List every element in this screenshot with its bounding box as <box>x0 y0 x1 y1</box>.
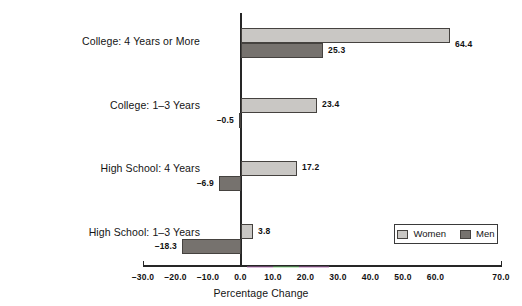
axis-artifact-2 <box>273 266 299 267</box>
bar-men-hs-4 <box>219 176 241 191</box>
bar-value-women-college-1to3: 23.4 <box>322 100 339 109</box>
bar-value-women-college-4plus: 64.4 <box>455 40 472 49</box>
chart-legend: Women Men <box>394 224 498 244</box>
bar-chart: College: 4 Years or More College: 1–3 Ye… <box>0 0 522 306</box>
tick-mark-3 <box>240 259 241 265</box>
bar-men-college-1to3 <box>239 113 241 128</box>
bar-women-college-1to3 <box>241 98 317 113</box>
axis-artifact-3 <box>299 266 329 267</box>
bar-value-women-hs-4: 17.2 <box>302 163 319 172</box>
bar-value-men-hs-1to3: –18.3 <box>129 242 177 251</box>
legend-item-women[interactable]: Women <box>397 229 446 239</box>
tick-mark-0 <box>143 261 144 265</box>
plot-area: 64.4 25.3 23.4 –0.5 17.2 –6.9 3.8 –18.3 … <box>0 0 522 306</box>
x-tick-label-10: 70.0 <box>481 272 521 282</box>
bar-women-hs-1to3 <box>241 224 253 239</box>
legend-swatch-women-icon <box>397 230 408 239</box>
bar-men-college-4plus <box>241 43 323 58</box>
x-axis-title: Percentage Change <box>0 287 522 299</box>
tick-mark-10 <box>501 261 502 265</box>
axis-artifact-1 <box>247 266 273 267</box>
bar-men-hs-1to3 <box>182 239 242 254</box>
legend-label-men: Men <box>476 229 494 239</box>
bar-value-women-hs-1to3: 3.8 <box>258 227 270 236</box>
x-tick-label-9: 60.0 <box>415 272 455 282</box>
legend-swatch-men-icon <box>460 230 471 239</box>
legend-item-men[interactable]: Men <box>460 229 494 239</box>
bar-value-men-hs-4: –6.9 <box>166 179 214 188</box>
bar-women-hs-4 <box>241 161 297 176</box>
bar-value-men-college-1to3: –0.5 <box>186 116 234 125</box>
bar-women-college-4plus <box>241 28 450 43</box>
bar-value-men-college-4plus: 25.3 <box>328 46 345 55</box>
legend-label-women: Women <box>413 229 446 239</box>
